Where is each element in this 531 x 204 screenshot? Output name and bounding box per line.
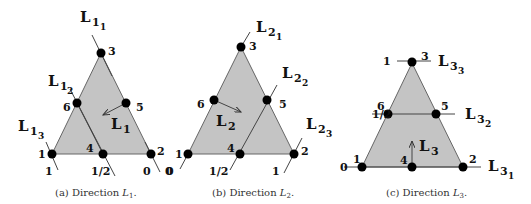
svg-text:1: 1 <box>100 22 106 32</box>
panel-a: 3 6 5 1 4 2 L 1 1 L 1 2 L 1 3 L 1 1 1/2 … <box>18 8 173 200</box>
svg-text:L: L <box>282 64 293 82</box>
svg-text:1: 1 <box>30 125 38 138</box>
value-L1-2: 1/2 <box>91 165 110 178</box>
svg-text:1: 1 <box>508 171 514 181</box>
node-3 <box>237 43 246 52</box>
svg-text:L: L <box>48 72 59 90</box>
svg-text:2: 2 <box>67 86 73 96</box>
value-L3-2: 1/2 <box>372 108 391 121</box>
caption-a: (a) Direction L1. <box>55 187 137 200</box>
panel-c: 3 6 5 1 4 2 1 1/2 0 L 3 3 L 3 2 L 3 1 L … <box>340 50 514 200</box>
svg-text:L: L <box>256 18 267 36</box>
svg-text:L: L <box>419 137 430 155</box>
node-label-2: 2 <box>469 153 477 166</box>
node-label-2: 2 <box>157 145 165 158</box>
line-label-L2-3: L 2 3 <box>306 115 332 139</box>
svg-text:2: 2 <box>302 78 308 88</box>
node-label-1: 1 <box>353 153 361 166</box>
node-label-3: 3 <box>421 50 429 63</box>
svg-text:L: L <box>18 117 29 135</box>
svg-text:1: 1 <box>92 16 100 29</box>
svg-text:2: 2 <box>318 123 326 136</box>
line-label-L2-2: L 2 2 <box>282 64 308 88</box>
svg-text:3: 3 <box>477 113 485 126</box>
svg-text:2: 2 <box>294 72 302 85</box>
value-L3-3: 1 <box>383 55 391 68</box>
node-2 <box>147 150 156 159</box>
svg-text:L: L <box>488 157 499 175</box>
value-L3-1: 0 <box>340 161 348 174</box>
line-label-L1-3: L 1 3 <box>18 117 44 141</box>
node-4 <box>236 150 245 159</box>
line-label-L3-2: L 3 2 <box>465 105 491 129</box>
value-L1-1: 0 <box>143 165 151 178</box>
svg-text:2: 2 <box>485 119 491 129</box>
node-label-4: 4 <box>86 142 94 155</box>
line-label-L1-1: L 1 1 <box>80 8 106 32</box>
svg-text:L: L <box>216 112 227 130</box>
node-1 <box>184 150 193 159</box>
node-label-4: 4 <box>400 154 408 167</box>
node-6 <box>73 99 82 108</box>
line-label-L3-3: L 3 3 <box>438 52 464 76</box>
panel-b: 3 6 5 1 4 2 L 2 1 L 2 2 L 2 3 L 2 0 1/2 … <box>166 18 332 200</box>
node-2 <box>290 150 299 159</box>
node-5 <box>432 110 441 119</box>
node-label-2: 2 <box>301 145 309 158</box>
node-label-3: 3 <box>249 40 257 53</box>
value-L2-1: 0 <box>166 165 174 178</box>
node-4 <box>408 163 417 172</box>
node-label-5: 5 <box>279 98 287 111</box>
svg-text:2: 2 <box>268 26 276 39</box>
node-2 <box>459 163 468 172</box>
svg-text:3: 3 <box>38 131 44 141</box>
node-4 <box>99 150 108 159</box>
line-label-L1-2: L 1 2 <box>48 72 73 96</box>
svg-text:3: 3 <box>500 165 508 178</box>
node-5 <box>263 96 272 105</box>
svg-text:3: 3 <box>458 66 464 76</box>
node-label-5: 5 <box>441 100 449 113</box>
svg-text:1: 1 <box>123 123 131 136</box>
node-label-6: 6 <box>197 98 205 111</box>
svg-text:L: L <box>465 105 476 123</box>
svg-text:3: 3 <box>431 145 439 158</box>
node-label-1: 1 <box>175 148 183 161</box>
node-3 <box>408 58 417 67</box>
node-label-1: 1 <box>38 148 46 161</box>
value-L1-3: 1 <box>45 165 53 178</box>
node-6 <box>210 96 219 105</box>
figure-canvas: 3 6 5 1 4 2 L 1 1 L 1 2 L 1 3 L 1 1 1/2 … <box>0 0 531 204</box>
svg-text:L: L <box>80 8 91 26</box>
caption-c: (c) Direction L3. <box>386 187 467 200</box>
svg-text:2: 2 <box>228 120 236 133</box>
line-label-L3-1: L 3 1 <box>488 157 514 181</box>
node-label-3: 3 <box>108 45 116 58</box>
node-label-6: 6 <box>63 101 71 114</box>
svg-text:L: L <box>438 52 449 70</box>
svg-text:3: 3 <box>326 129 332 139</box>
svg-text:3: 3 <box>450 60 458 73</box>
node-label-5: 5 <box>136 101 144 114</box>
node-5 <box>122 99 131 108</box>
svg-text:L: L <box>111 115 122 133</box>
node-3 <box>97 49 106 58</box>
svg-text:1: 1 <box>276 32 282 42</box>
line-label-L2-1: L 2 1 <box>256 18 282 42</box>
caption-b: (b) Direction L2. <box>212 187 294 200</box>
value-L2-2: 1/2 <box>209 165 228 178</box>
node-label-4: 4 <box>227 142 235 155</box>
value-L2-3: 1 <box>272 165 280 178</box>
node-1 <box>48 150 57 159</box>
svg-text:L: L <box>306 115 317 133</box>
